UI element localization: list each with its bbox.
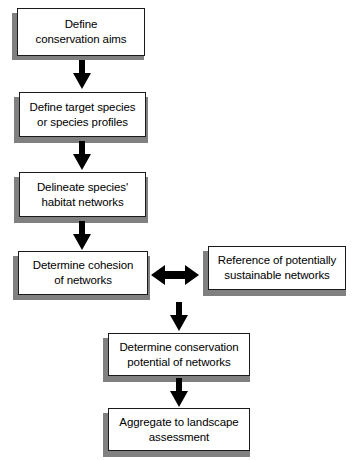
node-aggregate-to-landscape-assessment[interactable]: Aggregate to landscape assessment <box>108 408 250 451</box>
arrow-down-icon-5 <box>168 378 190 408</box>
node-label: Delineate species' habitat networks <box>33 180 132 210</box>
arrow-down-icon-3 <box>71 221 93 251</box>
node-label: Determine conservation potential of netw… <box>115 340 242 370</box>
arrow-down-icon-2 <box>71 141 93 171</box>
node-define-conservation-aims[interactable]: Define conservation aims <box>17 8 145 56</box>
arrow-down-icon-4 <box>168 302 190 332</box>
node-label: Determine cohesion of networks <box>29 258 137 288</box>
flowchart-diagram: Define conservation aims Define target s… <box>0 0 359 460</box>
node-reference-of-potentially-sustainable-networks[interactable]: Reference of potentially sustainable net… <box>208 246 346 290</box>
arrow-bidirectional-icon <box>151 262 199 288</box>
node-determine-conservation-potential[interactable]: Determine conservation potential of netw… <box>108 333 250 376</box>
node-label: Aggregate to landscape assessment <box>115 415 242 445</box>
node-label: Reference of potentially sustainable net… <box>214 253 340 283</box>
node-label: Define conservation aims <box>32 17 131 47</box>
node-label: Define target species or species profile… <box>26 100 140 130</box>
node-define-target-species[interactable]: Define target species or species profile… <box>19 92 146 137</box>
node-delineate-species-habitat-networks[interactable]: Delineate species' habitat networks <box>19 172 146 217</box>
node-determine-cohesion-of-networks[interactable]: Determine cohesion of networks <box>18 251 148 295</box>
arrow-down-icon-1 <box>71 60 93 90</box>
